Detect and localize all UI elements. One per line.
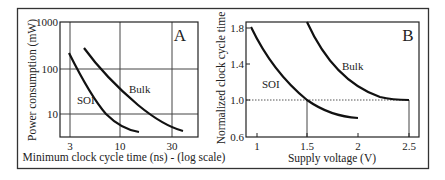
panel-a-letter: A [174, 26, 187, 45]
panel-b-xtick-2: 2 [355, 140, 361, 152]
panel-a-ytick-1000: 1000 [36, 16, 59, 28]
panel-b-xtick-2-5: 2.5 [402, 140, 416, 152]
panel-b: SOI Bulk B 1.8 1.4 1.0 0.6 1 1.5 2 2.5 S… [215, 12, 419, 165]
panel-b-xtick-1-5: 1.5 [300, 140, 314, 152]
panel-a-ytick-10: 10 [47, 108, 59, 120]
panel-b-letter: B [402, 26, 413, 45]
panel-b-ytick-1-0: 1.0 [230, 94, 244, 106]
panel-a: SOI Bulk A 1000 100 10 3 10 30 Minimum c… [23, 16, 226, 164]
panel-b-soi-label: SOI [262, 78, 280, 90]
panel-b-ylabel: Normalized clock cycle time [215, 12, 228, 145]
panel-b-ytick-0-6: 0.6 [230, 131, 244, 143]
panel-a-ytick-100: 100 [42, 63, 59, 75]
panel-a-soi-label: SOI [77, 94, 95, 106]
panel-a-xlabel: Minimum clock cycle time (ns) - (log sca… [23, 151, 226, 164]
panel-b-ytick-1-8: 1.8 [230, 22, 244, 34]
panel-b-ytick-1-4: 1.4 [230, 58, 244, 70]
panel-b-xtick-1: 1 [254, 140, 260, 152]
panel-a-ylabel: Power consumption (mW) [26, 19, 39, 141]
figure: SOI Bulk A 1000 100 10 3 10 30 Minimum c… [0, 0, 445, 180]
panel-b-xlabel: Supply voltage (V) [288, 152, 376, 165]
panel-a-bulk-label: Bulk [129, 83, 151, 95]
panel-b-bulk-label: Bulk [342, 60, 364, 72]
